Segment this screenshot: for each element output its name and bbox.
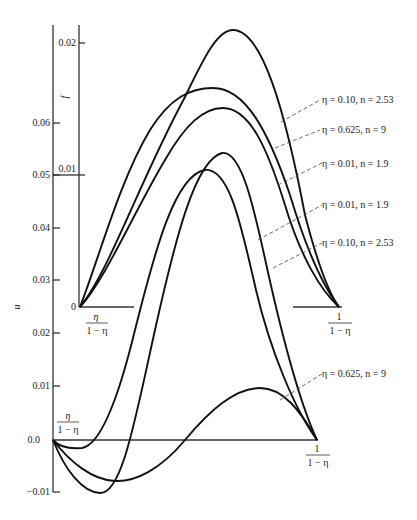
svg-text:η: η xyxy=(94,311,99,322)
svg-text:1: 1 xyxy=(337,311,342,322)
u-tick-label: 0.04 xyxy=(33,222,51,233)
label-eta-0.01-n-1.9: η = 0.01, n = 1.9 xyxy=(322,199,389,210)
series-labels: η = 0.10, n = 2.53 η = 0.625, n = 9 η = … xyxy=(322,94,394,379)
u-tick-label: 0.05 xyxy=(33,169,51,180)
u-tick-label: 0.02 xyxy=(33,327,51,338)
label-eta-0.625-n-9: η = 0.625, n = 9 xyxy=(322,368,386,379)
svg-text:1: 1 xyxy=(315,443,320,454)
u-tick-label: 0.01 xyxy=(33,380,51,391)
u-curve-eta-0.625 xyxy=(53,388,317,481)
f-x-end-label: 1 1 − η xyxy=(328,311,352,336)
f-curve-eta-0.10 xyxy=(80,30,339,307)
label-eta-0.625-n-9: η = 0.625, n = 9 xyxy=(322,124,386,135)
label-eta-0.01-n-1.9: η = 0.01, n = 1.9 xyxy=(322,158,389,169)
u-x-start-label: η 1 − η xyxy=(57,410,79,435)
f-curve-eta-0.625 xyxy=(80,88,339,307)
f-ticks: 0.02 0.01 0 xyxy=(53,37,85,312)
f-axis-label: f xyxy=(59,94,70,98)
label-eta-0.10-n-2.53: η = 0.10, n = 2.53 xyxy=(322,237,394,248)
u-x-end-label: 1 1 − η xyxy=(306,443,330,468)
chart-figure: 0.06 0.05 0.04 0.03 0.02 0.01 0.0 −0.01 … xyxy=(0,0,417,520)
f-tick-label: 0.02 xyxy=(59,37,77,48)
svg-text:1 − η: 1 − η xyxy=(87,325,108,336)
u-axis-label: u xyxy=(11,305,22,310)
svg-text:1 − η: 1 − η xyxy=(330,325,351,336)
u-tick-label: 0.03 xyxy=(33,274,51,285)
u-tick-label: 0.06 xyxy=(33,117,51,128)
label-eta-0.10-n-2.53: η = 0.10, n = 2.53 xyxy=(322,94,394,105)
u-tick-label: 0.0 xyxy=(28,434,41,445)
f-x-start-label: η 1 − η xyxy=(86,311,108,336)
svg-text:1 − η: 1 − η xyxy=(58,424,79,435)
u-tick-label: −0.01 xyxy=(27,486,50,497)
f-tick-label: 0.01 xyxy=(59,163,77,174)
f-tick-label: 0 xyxy=(71,301,76,312)
svg-text:1 − η: 1 − η xyxy=(308,457,329,468)
svg-text:η: η xyxy=(66,410,71,421)
